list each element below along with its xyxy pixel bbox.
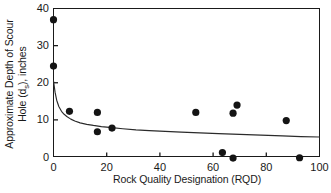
plot-area	[53, 8, 320, 157]
x-axis-title: Rock Quality Designation (RQD)	[53, 173, 321, 185]
x-tick-label: 40	[154, 162, 166, 173]
x-tick-label: 80	[260, 162, 272, 173]
y-tick-label: 30	[37, 40, 49, 51]
y-axis-title-line1: Approximate Depth of Scour	[3, 19, 16, 148]
x-tick-label: 20	[101, 162, 113, 173]
y-axis-title-line2-post: ), inches	[15, 46, 27, 85]
x-tick-label: 60	[207, 162, 219, 173]
y-tick-labels: 010203040	[30, 0, 49, 165]
y-tick-label: 10	[37, 114, 49, 125]
y-tick-label: 40	[37, 3, 49, 14]
chart-figure: Approximate Depth of Scour Hole (ds), in…	[0, 0, 331, 193]
x-tick-label: 0	[50, 162, 56, 173]
x-tick-label: 100	[310, 162, 328, 173]
x-tick-labels: 020406080100	[0, 160, 331, 174]
y-axis-title-line2-pre: Hole (d	[15, 89, 27, 122]
y-tick-label: 20	[37, 77, 49, 88]
